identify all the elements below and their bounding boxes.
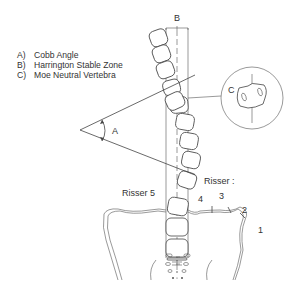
label-risser: Risser : [204, 176, 235, 186]
label-a: A [112, 126, 118, 136]
label-risser-3: 3 [219, 191, 224, 201]
label-risser-1: 1 [258, 225, 263, 235]
spine-diagram: B A C [0, 0, 297, 301]
label-b: B [174, 13, 180, 23]
coccyx-marks [172, 260, 182, 270]
vertebrae [148, 27, 202, 260]
label-risser-2: 2 [242, 205, 247, 215]
label-risser-5: Risser 5 [122, 188, 155, 198]
label-risser-4: 4 [198, 194, 203, 204]
label-c: C [228, 85, 235, 95]
moe-neutral-callout: C [188, 67, 283, 129]
